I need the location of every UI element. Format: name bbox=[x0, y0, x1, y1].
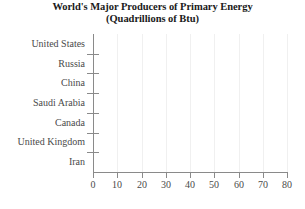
x-axis-tick bbox=[239, 173, 240, 178]
y-axis-tick bbox=[87, 152, 99, 153]
gridline bbox=[263, 34, 264, 172]
gridline bbox=[214, 34, 215, 172]
chart-title-line-2: (Quadrillions of Btu) bbox=[0, 13, 305, 25]
gridline bbox=[287, 34, 288, 172]
plot-area bbox=[93, 34, 287, 172]
x-axis-tick bbox=[166, 173, 167, 178]
x-axis-tick-label: 80 bbox=[272, 180, 302, 190]
gridline bbox=[190, 34, 191, 172]
x-axis-tick bbox=[263, 173, 264, 178]
chart-title-line-1: World's Major Producers of Primary Energ… bbox=[0, 1, 305, 13]
gridline bbox=[166, 34, 167, 172]
y-axis-category-label: Canada bbox=[0, 118, 85, 128]
gridline bbox=[142, 34, 143, 172]
y-axis-category-label: China bbox=[0, 78, 85, 88]
y-axis-category-label: United States bbox=[0, 39, 85, 49]
y-axis-tick bbox=[87, 54, 99, 55]
y-axis-category-label: Russia bbox=[0, 59, 85, 69]
x-axis-tick bbox=[142, 173, 143, 178]
x-axis-tick bbox=[190, 173, 191, 178]
gridlines bbox=[93, 34, 287, 172]
chart-title: World's Major Producers of Primary Energ… bbox=[0, 1, 305, 24]
x-axis-tick bbox=[287, 173, 288, 178]
x-axis-tick bbox=[117, 173, 118, 178]
y-axis-category-label: Iran bbox=[0, 157, 85, 167]
y-axis-tick bbox=[87, 73, 99, 74]
x-axis-tick bbox=[93, 173, 94, 178]
y-axis-tick bbox=[87, 93, 99, 94]
gridline bbox=[239, 34, 240, 172]
y-axis-category-label: Saudi Arabia bbox=[0, 98, 85, 108]
x-axis-tick bbox=[214, 173, 215, 178]
gridline bbox=[117, 34, 118, 172]
y-axis-tick bbox=[87, 113, 99, 114]
chart-figure: World's Major Producers of Primary Energ… bbox=[0, 0, 305, 209]
y-axis-tick bbox=[87, 133, 99, 134]
y-axis-category-label: United Kingdom bbox=[0, 137, 85, 147]
